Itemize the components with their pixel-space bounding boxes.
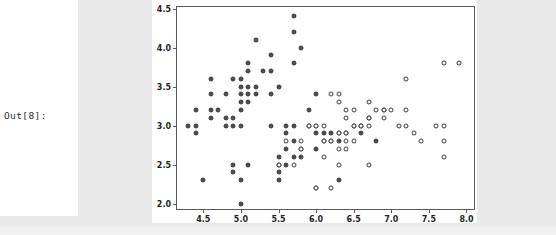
scatter-point-filled bbox=[208, 92, 213, 97]
scatter-point-hollow bbox=[441, 123, 446, 128]
scatter-point-filled bbox=[336, 178, 341, 183]
scatter-point-hollow bbox=[404, 107, 409, 112]
y-axis-tick bbox=[173, 204, 177, 205]
scatter-point-hollow bbox=[381, 107, 386, 112]
scatter-point-hollow bbox=[321, 123, 326, 128]
scatter-point-filled bbox=[238, 92, 243, 97]
scatter-point-hollow bbox=[336, 92, 341, 97]
scatter-point-filled bbox=[246, 92, 251, 97]
x-axis-tick bbox=[279, 209, 280, 213]
x-axis-tick bbox=[354, 209, 355, 213]
scatter-point-filled bbox=[201, 178, 206, 183]
page-footer-strip bbox=[0, 226, 556, 235]
y-axis-tick bbox=[173, 9, 177, 10]
scatter-point-hollow bbox=[359, 123, 364, 128]
scatter-point-hollow bbox=[434, 123, 439, 128]
scatter-point-filled bbox=[223, 92, 228, 97]
y-axis-tick bbox=[173, 165, 177, 166]
y-axis-tick-label: 2.5 bbox=[157, 160, 171, 169]
notebook-output-screen: Out[8]: 2.02.53.03.54.04.54.55.05.56.06.… bbox=[0, 0, 556, 235]
scatter-point-hollow bbox=[314, 123, 319, 128]
scatter-point-filled bbox=[374, 139, 379, 144]
scatter-point-filled bbox=[231, 76, 236, 81]
x-axis-tick-label: 7.5 bbox=[422, 215, 436, 224]
scatter-point-filled bbox=[291, 29, 296, 34]
scatter-point-hollow bbox=[344, 115, 349, 120]
scatter-point-hollow bbox=[441, 139, 446, 144]
y-axis-tick-label: 4.5 bbox=[157, 4, 171, 13]
scatter-point-filled bbox=[284, 131, 289, 136]
y-axis-tick-label: 3.5 bbox=[157, 82, 171, 91]
x-axis-tick-label: 5.5 bbox=[271, 215, 285, 224]
scatter-point-hollow bbox=[329, 139, 334, 144]
scatter-point-hollow bbox=[441, 154, 446, 159]
scatter-point-hollow bbox=[351, 107, 356, 112]
scatter-point-hollow bbox=[344, 146, 349, 151]
scatter-point-filled bbox=[238, 100, 243, 105]
scatter-point-hollow bbox=[336, 131, 341, 136]
output-prompt-label: Out[8]: bbox=[4, 110, 47, 121]
scatter-point-filled bbox=[231, 123, 236, 128]
scatter-point-filled bbox=[246, 162, 251, 167]
x-axis-tick-label: 7.0 bbox=[384, 215, 398, 224]
scatter-point-filled bbox=[291, 61, 296, 66]
x-axis-tick bbox=[466, 209, 467, 213]
scatter-point-hollow bbox=[336, 100, 341, 105]
scatter-point-hollow bbox=[389, 107, 394, 112]
scatter-point-hollow bbox=[321, 154, 326, 159]
y-axis-tick bbox=[173, 87, 177, 88]
scatter-point-filled bbox=[223, 115, 228, 120]
scatter-point-hollow bbox=[456, 61, 461, 66]
scatter-point-filled bbox=[238, 178, 243, 183]
scatter-point-hollow bbox=[366, 100, 371, 105]
scatter-point-filled bbox=[231, 115, 236, 120]
scatter-point-hollow bbox=[411, 131, 416, 136]
scatter-point-filled bbox=[253, 92, 258, 97]
scatter-point-filled bbox=[284, 146, 289, 151]
scatter-point-hollow bbox=[314, 185, 319, 190]
scatter-point-hollow bbox=[441, 61, 446, 66]
scatter-point-filled bbox=[314, 131, 319, 136]
scatter-point-filled bbox=[238, 84, 243, 89]
scatter-point-filled bbox=[268, 53, 273, 58]
scatter-point-filled bbox=[284, 123, 289, 128]
x-axis-tick-label: 5.0 bbox=[234, 215, 248, 224]
scatter-point-hollow bbox=[404, 76, 409, 81]
scatter-point-hollow bbox=[344, 139, 349, 144]
page-background-right bbox=[477, 0, 556, 216]
y-axis-tick bbox=[173, 48, 177, 49]
scatter-point-hollow bbox=[276, 162, 281, 167]
y-axis-tick-label: 3.0 bbox=[157, 121, 171, 130]
scatter-point-hollow bbox=[306, 123, 311, 128]
scatter-point-filled bbox=[253, 37, 258, 42]
scatter-point-filled bbox=[329, 131, 334, 136]
scatter-point-filled bbox=[186, 123, 191, 128]
x-axis-tick bbox=[241, 209, 242, 213]
scatter-point-filled bbox=[314, 146, 319, 151]
scatter-point-filled bbox=[268, 123, 273, 128]
scatter-point-filled bbox=[246, 68, 251, 73]
scatter-point-filled bbox=[231, 170, 236, 175]
scatter-point-filled bbox=[193, 107, 198, 112]
scatter-point-hollow bbox=[366, 115, 371, 120]
scatter-point-filled bbox=[359, 131, 364, 136]
scatter-point-filled bbox=[208, 107, 213, 112]
scatter-point-hollow bbox=[299, 146, 304, 151]
scatter-point-hollow bbox=[336, 146, 341, 151]
scatter-point-filled bbox=[291, 123, 296, 128]
scatter-point-hollow bbox=[366, 123, 371, 128]
x-axis-tick-label: 8.0 bbox=[459, 215, 473, 224]
scatter-point-filled bbox=[246, 84, 251, 89]
scatter-point-filled bbox=[291, 139, 296, 144]
scatter-point-hollow bbox=[291, 162, 296, 167]
scatter-point-hollow bbox=[336, 162, 341, 167]
x-axis-tick-label: 6.5 bbox=[347, 215, 361, 224]
scatter-point-filled bbox=[268, 92, 273, 97]
scatter-point-hollow bbox=[396, 123, 401, 128]
scatter-point-filled bbox=[291, 14, 296, 19]
x-axis-tick bbox=[429, 209, 430, 213]
x-axis-tick-label: 4.5 bbox=[196, 215, 210, 224]
page-background-left bbox=[78, 0, 152, 216]
scatter-point-hollow bbox=[329, 185, 334, 190]
x-axis-tick bbox=[316, 209, 317, 213]
